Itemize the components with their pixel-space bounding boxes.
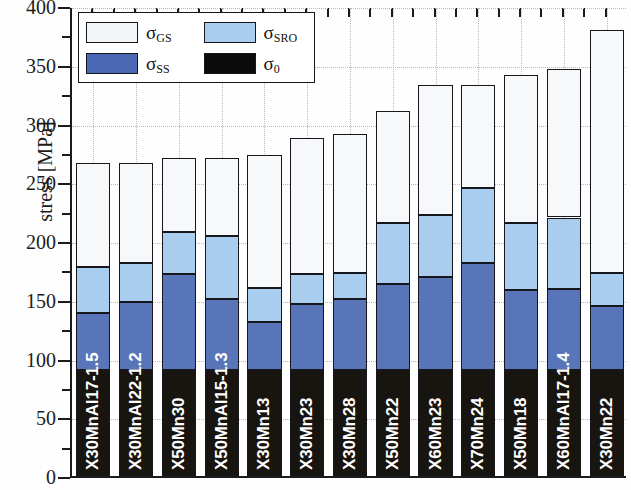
y-tick-major-50 bbox=[58, 418, 70, 420]
y-tick-label-0: 0 bbox=[10, 467, 56, 487]
y-tick-label-300: 300 bbox=[10, 115, 56, 135]
stacked-bar-chart: stress [MPa] 050100150200250300350400 X3… bbox=[0, 0, 631, 490]
bar-segment-sigma_SS-X50MnAl15-1.3 bbox=[205, 299, 239, 371]
bar-segment-sigma_SRO-X50MnAl15-1.3 bbox=[205, 236, 239, 298]
y-axis-tick-labels: 050100150200250300350400 bbox=[0, 0, 56, 490]
y-tick-label-150: 150 bbox=[10, 291, 56, 311]
bar-X60Mn23[interactable]: X60Mn23 bbox=[418, 8, 452, 476]
legend-item-sigma-gs: σGS bbox=[79, 22, 197, 44]
bar-segment-sigma_SRO-X30Mn22 bbox=[590, 273, 624, 306]
bar-X70Mn24[interactable]: X70Mn24 bbox=[461, 8, 495, 476]
y-tick-label-350: 350 bbox=[10, 56, 56, 76]
bar-segment-sigma_SRO-X30MnAl22-1.2 bbox=[119, 263, 153, 302]
legend-label-sigma-ss: σSS bbox=[146, 53, 170, 75]
bar-segment-sigma_SS-X60MnAl17-1.4 bbox=[547, 289, 581, 370]
bar-segment-sigma_0-X50Mn22 bbox=[376, 370, 410, 476]
y-tick-minor-175 bbox=[62, 271, 70, 273]
y-tick-label-100: 100 bbox=[10, 350, 56, 370]
bar-segment-sigma_0-X50Mn18 bbox=[504, 370, 538, 476]
bar-segment-sigma_SRO-X30Mn28 bbox=[333, 273, 367, 299]
bar-segment-sigma_0-X30Mn22 bbox=[590, 370, 624, 476]
bar-segment-sigma_SS-X30Mn28 bbox=[333, 299, 367, 371]
y-tick-major-400 bbox=[58, 7, 70, 9]
y-tick-major-0 bbox=[58, 477, 70, 479]
legend-label-sigma-sro: σSRO bbox=[264, 22, 298, 44]
y-tick-minor-375 bbox=[62, 36, 70, 38]
bar-segment-sigma_SS-X30MnAl17-1.5 bbox=[76, 313, 110, 371]
bar-segment-sigma_SS-X50Mn18 bbox=[504, 290, 538, 370]
bar-segment-sigma_GS-X50Mn18 bbox=[504, 75, 538, 223]
bar-segment-sigma_SS-X30Mn22 bbox=[590, 306, 624, 371]
bar-segment-sigma_SRO-X30Mn13 bbox=[247, 288, 281, 322]
y-tick-label-400: 400 bbox=[10, 0, 56, 17]
legend-item-sigma-ss: σSS bbox=[79, 53, 197, 75]
bar-segment-sigma_SRO-X70Mn24 bbox=[461, 188, 495, 263]
bar-segment-sigma_GS-X30Mn23 bbox=[290, 138, 324, 274]
y-tick-label-250: 250 bbox=[10, 173, 56, 193]
bar-segment-sigma_GS-X50Mn22 bbox=[376, 111, 410, 224]
bar-segment-sigma_0-X30Mn23 bbox=[290, 370, 324, 476]
chart-legend: σGS σSRO σSS σ0 bbox=[78, 12, 315, 83]
y-tick-minor-125 bbox=[62, 330, 70, 332]
bar-segment-sigma_SS-X50Mn22 bbox=[376, 284, 410, 370]
bar-segment-sigma_SS-X30Mn13 bbox=[247, 322, 281, 370]
y-tick-major-150 bbox=[58, 301, 70, 303]
bar-segment-sigma_SRO-X60MnAl17-1.4 bbox=[547, 218, 581, 290]
bar-segment-sigma_0-X60MnAl17-1.4 bbox=[547, 370, 581, 476]
bar-segment-sigma_GS-X30MnAl22-1.2 bbox=[119, 163, 153, 263]
y-tick-minor-25 bbox=[62, 448, 70, 450]
bar-segment-sigma_GS-X30Mn13 bbox=[247, 155, 281, 288]
bar-X60MnAl17-1.4[interactable]: X60MnAl17-1.4 bbox=[547, 8, 581, 476]
bar-segment-sigma_SRO-X50Mn30 bbox=[162, 232, 196, 274]
bar-segment-sigma_SRO-X50Mn22 bbox=[376, 223, 410, 284]
y-tick-label-50: 50 bbox=[10, 408, 56, 428]
bar-segment-sigma_0-X30Mn28 bbox=[333, 370, 367, 476]
legend-item-sigma-0: σ0 bbox=[197, 53, 315, 75]
bar-segment-sigma_0-X30MnAl22-1.2 bbox=[119, 370, 153, 476]
y-tick-major-350 bbox=[58, 66, 70, 68]
legend-swatch-sigma-0 bbox=[204, 53, 256, 74]
bar-segment-sigma_GS-X50Mn30 bbox=[162, 158, 196, 232]
y-tick-minor-225 bbox=[62, 213, 70, 215]
legend-row-bottom: σSS σ0 bbox=[79, 48, 314, 79]
y-tick-major-100 bbox=[58, 360, 70, 362]
bar-segment-sigma_SRO-X60Mn23 bbox=[418, 215, 452, 277]
bar-segment-sigma_GS-X30Mn22 bbox=[590, 30, 624, 273]
legend-label-sigma-0: σ0 bbox=[264, 53, 280, 75]
bar-segment-sigma_GS-X50MnAl15-1.3 bbox=[205, 158, 239, 237]
y-tick-major-250 bbox=[58, 183, 70, 185]
y-tick-major-200 bbox=[58, 242, 70, 244]
legend-swatch-sigma-ss bbox=[86, 53, 138, 74]
bar-segment-sigma_SS-X30Mn23 bbox=[290, 304, 324, 370]
legend-swatch-sigma-sro bbox=[204, 22, 256, 43]
bar-segment-sigma_SS-X50Mn30 bbox=[162, 274, 196, 370]
bar-segment-sigma_SRO-X30MnAl17-1.5 bbox=[76, 267, 110, 313]
y-tick-minor-75 bbox=[62, 389, 70, 391]
bar-segment-sigma_GS-X30MnAl17-1.5 bbox=[76, 163, 110, 266]
legend-item-sigma-sro: σSRO bbox=[197, 22, 315, 44]
legend-swatch-sigma-gs bbox=[86, 22, 138, 43]
bar-segment-sigma_0-X70Mn24 bbox=[461, 370, 495, 476]
y-tick-label-200: 200 bbox=[10, 232, 56, 252]
legend-row-top: σGS σSRO bbox=[79, 17, 314, 48]
bar-X50Mn22[interactable]: X50Mn22 bbox=[376, 8, 410, 476]
bar-segment-sigma_GS-X60Mn23 bbox=[418, 85, 452, 215]
bar-segment-sigma_0-X30MnAl17-1.5 bbox=[76, 370, 110, 476]
bar-segment-sigma_GS-X30Mn28 bbox=[333, 134, 367, 273]
legend-label-sigma-gs: σGS bbox=[146, 22, 172, 44]
bar-segment-sigma_SRO-X50Mn18 bbox=[504, 223, 538, 290]
bar-segment-sigma_0-X60Mn23 bbox=[418, 370, 452, 476]
y-tick-minor-325 bbox=[62, 95, 70, 97]
y-tick-minor-275 bbox=[62, 154, 70, 156]
bar-segment-sigma_0-X50Mn30 bbox=[162, 370, 196, 476]
bar-segment-sigma_SS-X70Mn24 bbox=[461, 263, 495, 370]
bar-X30Mn28[interactable]: X30Mn28 bbox=[333, 8, 367, 476]
bar-X30Mn22[interactable]: X30Mn22 bbox=[590, 8, 624, 476]
bar-segment-sigma_SS-X60Mn23 bbox=[418, 277, 452, 370]
bar-segment-sigma_GS-X60MnAl17-1.4 bbox=[547, 69, 581, 217]
bar-segment-sigma_0-X30Mn13 bbox=[247, 370, 281, 476]
bar-X50Mn18[interactable]: X50Mn18 bbox=[504, 8, 538, 476]
bar-segment-sigma_GS-X70Mn24 bbox=[461, 85, 495, 188]
bar-segment-sigma_0-X50MnAl15-1.3 bbox=[205, 370, 239, 476]
bar-segment-sigma_SS-X30MnAl22-1.2 bbox=[119, 302, 153, 370]
